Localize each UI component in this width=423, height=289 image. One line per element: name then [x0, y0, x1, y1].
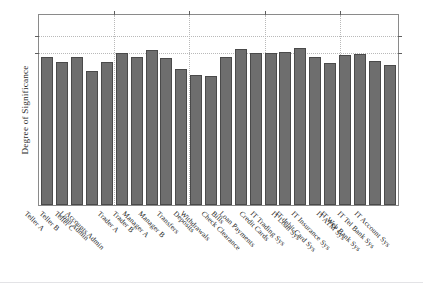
- bar-slot: [55, 15, 70, 205]
- y-axis-title: Degree of Significance: [14, 14, 36, 206]
- bar-slot: [367, 15, 382, 205]
- bar-slot: [382, 15, 397, 205]
- page-bottom-rule: [0, 282, 423, 283]
- y-axis-title-text: Degree of Significance: [20, 65, 30, 154]
- plot-area: [38, 14, 399, 206]
- bar-slot: [233, 15, 248, 205]
- bar: [160, 58, 172, 205]
- bar-slot: [189, 15, 204, 205]
- bar-slot: [204, 15, 219, 205]
- x-axis-tick-labels: Teller ATeller BTeller CLoan AdminAccoun…: [38, 207, 399, 287]
- bar: [384, 65, 396, 205]
- bar-slot: [159, 15, 174, 205]
- bar-slot: [114, 15, 129, 205]
- y-tick-right-0: [398, 36, 402, 37]
- bar-slot: [129, 15, 144, 205]
- bar-slot: [308, 15, 323, 205]
- bar-slot: [323, 15, 338, 205]
- bar-slot: [263, 15, 278, 205]
- bar-slot: [40, 15, 55, 205]
- bar: [354, 54, 366, 205]
- bar: [116, 53, 128, 205]
- bar-slot: [338, 15, 353, 205]
- bar: [131, 57, 143, 205]
- bar-slot: [100, 15, 115, 205]
- bar: [265, 53, 277, 205]
- y-tick-right-1: [398, 53, 402, 54]
- bar-slot: [174, 15, 189, 205]
- bar-slot: [144, 15, 159, 205]
- bar-slot: [85, 15, 100, 205]
- bar: [339, 55, 351, 205]
- bar-slot: [219, 15, 234, 205]
- bar-slot: [70, 15, 85, 205]
- bar: [250, 53, 262, 205]
- bar: [220, 57, 232, 205]
- bar: [56, 62, 68, 205]
- bar: [279, 52, 291, 205]
- bar-slot: [293, 15, 308, 205]
- bar: [369, 61, 381, 206]
- bar-slot: [278, 15, 293, 205]
- bar-slot: [248, 15, 263, 205]
- bar: [146, 50, 158, 205]
- bar: [101, 62, 113, 205]
- bar: [205, 76, 217, 205]
- bar: [235, 49, 247, 205]
- bar-chart-figure: Degree of Significance Teller ATeller BT…: [0, 0, 423, 289]
- bar: [71, 57, 83, 205]
- bar: [175, 69, 187, 205]
- bar: [309, 57, 321, 205]
- bar: [190, 75, 202, 205]
- bar: [41, 57, 53, 205]
- bar: [294, 48, 306, 205]
- bar-series: [39, 15, 398, 205]
- bar: [86, 71, 98, 205]
- bar: [324, 63, 336, 205]
- bar-slot: [352, 15, 367, 205]
